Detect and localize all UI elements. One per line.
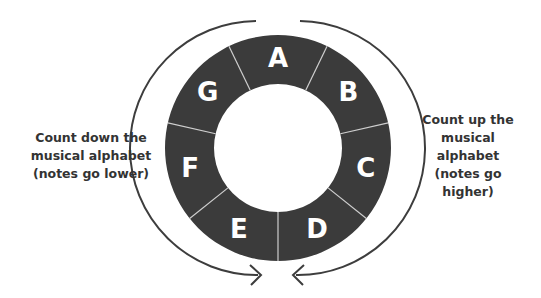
note-letter-c: C <box>356 153 375 183</box>
note-letter-e: E <box>230 214 248 244</box>
note-letter-d: D <box>306 214 328 244</box>
note-letter-g: G <box>197 77 218 107</box>
note-letter-a: A <box>268 43 288 73</box>
note-letter-b: B <box>338 77 358 107</box>
count-down-caption: Count down the musical alphabet (notes g… <box>30 129 152 183</box>
note-letter-f: F <box>181 153 199 183</box>
count-up-caption: Count up the musical alphabet (notes go … <box>408 111 528 201</box>
